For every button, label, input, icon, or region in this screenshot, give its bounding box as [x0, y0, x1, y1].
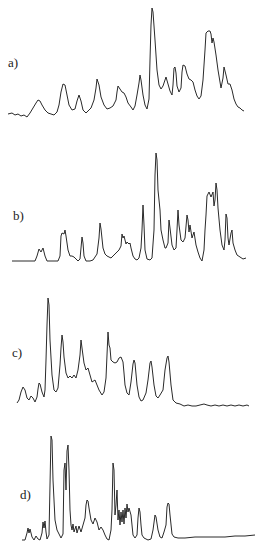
spectra-plot: [0, 0, 261, 552]
spectrum-trace-b: [12, 153, 246, 261]
spectrum-trace-a: [8, 8, 244, 117]
spectrum-trace-d: [22, 436, 255, 540]
spectrum-trace-c: [17, 298, 249, 406]
